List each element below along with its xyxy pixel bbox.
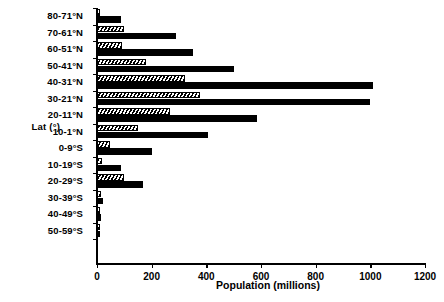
bar-hatched: [97, 9, 100, 15]
bar-solid: [97, 132, 208, 138]
category-labels: 80-71°N70-61°N60-51°N50-41°N40-31°N30-21…: [0, 8, 88, 239]
bar-row: [97, 173, 439, 190]
bar-hatched: [97, 59, 146, 65]
bar-hatched: [97, 92, 200, 98]
bar-row: [97, 91, 439, 108]
bar-hatched: [97, 207, 100, 213]
bar-hatched: [97, 42, 122, 48]
bar-solid: [97, 66, 234, 72]
bar-row: [97, 140, 439, 157]
bar-solid: [97, 99, 370, 105]
bar-solid: [97, 214, 101, 220]
x-tick: [206, 263, 207, 268]
category-label: 10-1°N: [0, 124, 88, 141]
x-tick: [316, 263, 317, 268]
bar-solid: [97, 181, 143, 187]
bar-row: [97, 41, 439, 58]
bar-row: [97, 206, 439, 223]
category-label: 20-29°S: [0, 173, 88, 190]
bar-solid: [97, 148, 152, 154]
category-label: 40-31°N: [0, 74, 88, 91]
bar-row: [97, 190, 439, 207]
bar-hatched: [97, 224, 100, 230]
x-tick: [370, 263, 371, 268]
plot-area: 020040060080010001200: [97, 8, 439, 272]
bar-solid: [97, 16, 121, 22]
bar-hatched: [97, 108, 170, 114]
bar-solid: [97, 49, 193, 55]
bar-hatched: [97, 191, 101, 197]
bar-hatched: [97, 125, 138, 131]
bar-hatched: [97, 26, 124, 32]
category-label: 0-9°S: [0, 140, 88, 157]
bar-row: [97, 25, 439, 42]
category-label: 20-11°N: [0, 107, 88, 124]
bar-solid: [97, 115, 257, 121]
bar-row: [97, 107, 439, 124]
bar-hatched: [97, 75, 185, 81]
bar-hatched: [97, 141, 110, 147]
bar-hatched: [97, 158, 102, 164]
x-axis-title: Population (millions): [97, 279, 439, 291]
y-tick: [93, 239, 98, 240]
bar-row: [97, 157, 439, 174]
bar-solid: [97, 33, 176, 39]
bar-solid: [97, 165, 121, 171]
category-label: 10-19°S: [0, 157, 88, 174]
population-by-latitude-chart: Lat (°) 80-71°N70-61°N60-51°N50-41°N40-3…: [0, 0, 444, 302]
x-tick: [261, 263, 262, 268]
category-label: 50-41°N: [0, 58, 88, 75]
category-label: 50-59°S: [0, 223, 88, 240]
bar-row: [97, 223, 439, 240]
bar-solid: [97, 231, 100, 237]
bar-row: [97, 74, 439, 91]
bar-row: [97, 124, 439, 141]
x-tick: [152, 263, 153, 268]
category-label: 30-21°N: [0, 91, 88, 108]
category-label: 60-51°N: [0, 41, 88, 58]
category-label: 70-61°N: [0, 25, 88, 42]
category-label: 30-39°S: [0, 190, 88, 207]
category-label: 80-71°N: [0, 8, 88, 25]
bar-solid: [97, 82, 373, 88]
bar-row: [97, 8, 439, 25]
bar-row: [97, 58, 439, 75]
category-label: 40-49°S: [0, 206, 88, 223]
x-tick: [425, 263, 426, 268]
bar-hatched: [97, 174, 124, 180]
bar-solid: [97, 198, 103, 204]
x-tick: [97, 263, 98, 268]
